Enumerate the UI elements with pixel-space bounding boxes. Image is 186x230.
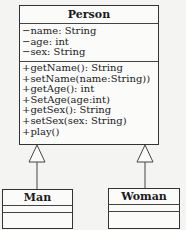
attributes-section [109,205,179,212]
attribute: −sex: String [20,47,158,58]
operation: +play() [20,127,158,138]
operation: +setSex(sex: String) [20,116,158,127]
attributes-section: −name: String −age: int −sex: String [20,24,158,62]
man-inherits-person-arrow [29,145,45,189]
operations-section [109,212,179,219]
operation: +getName(): String [20,63,158,74]
class-name: Person [20,6,158,24]
class-name: Woman [109,189,179,205]
class-man: Man [2,189,73,229]
attributes-section [3,206,72,213]
attribute: −name: String [20,26,158,37]
class-name: Man [3,190,72,206]
class-person: Person −name: String −age: int −sex: Str… [19,5,159,145]
operations-section [3,213,72,220]
woman-inherits-person-arrow [137,145,153,188]
class-woman: Woman [108,188,180,229]
operations-section: +getName(): String +setName(name:String)… [20,62,158,137]
